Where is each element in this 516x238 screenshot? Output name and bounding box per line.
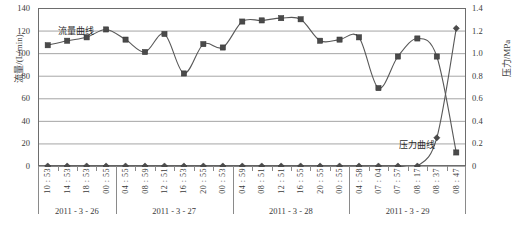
y-tick-right: 1.2 [472,26,498,36]
data-point [201,42,206,47]
data-point [181,71,186,76]
x-tick-label: 16 : 55 [296,168,305,194]
series-line [48,17,457,152]
y-tick-right: 0.2 [472,138,498,148]
data-point [279,16,284,21]
x-tick-mark [272,166,273,171]
x-tick-label: 12 : 51 [160,168,169,194]
y-tick-left: 120 [4,26,30,36]
x-tick-mark [96,166,97,171]
y-tick-right: 0.4 [472,116,498,126]
data-point [415,36,420,41]
x-tick-label: 08 : 47 [452,168,461,194]
data-point [454,150,459,155]
y-tick-left: 140 [4,3,30,13]
x-date-group-label: 2011 - 3 - 28 [233,206,350,216]
data-point [259,18,264,23]
y-tick-left: 40 [4,116,30,126]
y-tick-left: 0 [4,161,30,171]
x-tick-label: 07 : 57 [393,168,402,194]
data-point [356,35,361,40]
y-tick-right: 0.8 [472,71,498,81]
y-tick-left: 20 [4,138,30,148]
x-tick-mark [194,166,195,171]
y-tick-left: 60 [4,93,30,103]
chart-figure: 流量/(L/min) 压力/MPa 020406080100120140 00.… [0,0,516,238]
x-tick-label: 04 : 59 [238,168,247,194]
data-point [298,17,303,22]
data-point [220,45,225,50]
x-tick-label: 20 : 55 [316,168,325,194]
x-tick-label: 18 : 53 [82,168,91,194]
x-tick-label: 08 : 59 [141,168,150,194]
series-2 [45,25,460,167]
y-tick-right: 0 [472,161,498,171]
data-point [395,54,400,59]
x-group-separator [465,166,466,214]
x-date-group-label: 2011 - 3 - 27 [116,206,233,216]
x-tick-label: 20 : 55 [199,168,208,194]
y-axis-right-title: 压力/MPa [500,19,513,99]
x-tick-mark [447,166,448,171]
x-tick-mark [388,166,389,171]
x-group-separator [38,166,39,214]
y-tick-left: 100 [4,48,30,58]
x-tick-mark [155,166,156,171]
x-tick-mark [174,166,175,171]
series-line [48,28,457,167]
x-tick-label: 00 : 55 [102,168,111,194]
x-date-group-label: 2011 - 3 - 29 [349,206,466,216]
x-group-separator [233,166,234,214]
x-tick-mark [369,166,370,171]
x-tick-label: 07 : 04 [374,168,383,194]
data-point [65,38,70,43]
x-tick-mark [291,166,292,171]
x-tick-mark [213,166,214,171]
x-tick-mark [252,166,253,171]
series-1 [45,16,459,156]
x-tick-label: 10 : 53 [43,168,52,194]
data-point [240,19,245,24]
data-point [142,49,147,54]
y-tick-right: 1.4 [472,3,498,13]
y-tick-left: 80 [4,71,30,81]
x-tick-mark [77,166,78,171]
x-tick-label: 08 : 51 [257,168,266,194]
x-tick-mark [135,166,136,171]
x-tick-label: 04 : 55 [121,168,130,194]
x-tick-label: 04 : 58 [355,168,364,194]
x-group-separator [116,166,117,214]
x-tick-mark [58,166,59,171]
y-tick-right: 0.6 [472,93,498,103]
x-tick-label: 00 : 55 [335,168,344,194]
data-point [317,38,322,43]
x-tick-label: 08 : 17 [413,168,422,194]
x-tick-mark [310,166,311,171]
data-point [162,31,167,36]
x-tick-mark [330,166,331,171]
x-axis-band: 10 : 5314 : 5318 : 5300 : 5504 : 5508 : … [38,166,466,238]
x-tick-mark [427,166,428,171]
data-point [453,25,459,31]
x-tick-label: 12 : 51 [277,168,286,194]
x-tick-label: 00 : 53 [218,168,227,194]
x-date-group-label: 2011 - 3 - 26 [38,206,116,216]
x-tick-label: 14 : 53 [63,168,72,194]
pressure-curve-label: 压力曲线 [399,138,435,151]
data-point [45,43,50,48]
data-point [434,54,439,59]
x-group-separator [349,166,350,214]
data-point [123,37,128,42]
y-tick-right: 1.0 [472,48,498,58]
data-point [103,27,108,32]
data-point [376,86,381,91]
x-tick-mark [408,166,409,171]
data-point [337,37,342,42]
flow-curve-label: 流量曲线 [58,24,94,37]
x-tick-label: 16 : 53 [179,168,188,194]
x-tick-label: 08 : 37 [432,168,441,194]
